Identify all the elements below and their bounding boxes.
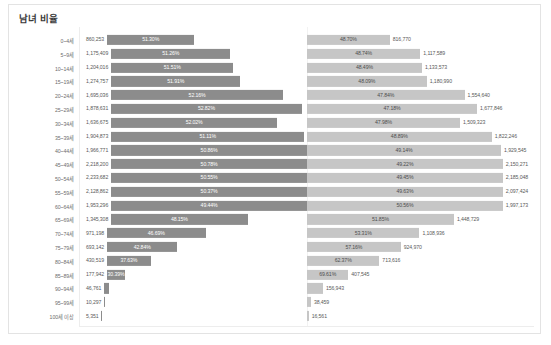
female-bar[interactable]: 48.89% <box>307 131 492 141</box>
male-bar[interactable]: 51.30% <box>107 35 194 45</box>
male-bar[interactable]: 51.11% <box>111 131 304 141</box>
female-bar[interactable]: 51.85% <box>307 214 454 224</box>
female-bar[interactable] <box>307 311 309 321</box>
female-bar[interactable]: 62.37% <box>307 256 379 266</box>
bar-track: 51.91%1,274,75748.09%1,180,990 <box>80 76 534 86</box>
male-percent-label: 50.78% <box>201 162 218 167</box>
female-percent-label: 48.49% <box>356 65 373 70</box>
female-bar[interactable]: 48.09% <box>307 76 427 86</box>
chart-row[interactable]: 50.55%2,233,68249.45%2,185,048 <box>80 173 534 183</box>
chart-row[interactable]: 52.82%1,878,63147.18%1,677,846 <box>80 104 534 114</box>
male-bar[interactable]: 37.63% <box>107 256 151 266</box>
female-bar[interactable]: 69.61% <box>307 270 348 280</box>
male-bar[interactable]: 51.26% <box>111 49 230 59</box>
chart-row[interactable]: 50.86%1,966,77149.14%1,929,545 <box>80 145 534 155</box>
female-side: 47.98%1,509,323 <box>307 118 531 128</box>
chart-row[interactable]: 51.91%1,274,75748.09%1,180,990 <box>80 76 534 86</box>
bar-track: 52.16%1,695,03647.84%1,554,640 <box>80 90 534 100</box>
male-bar[interactable]: 52.16% <box>111 90 283 100</box>
male-bar[interactable]: 52.82% <box>111 104 301 114</box>
chart-row[interactable]: 51.26%1,175,40948.74%1,117,589 <box>80 49 534 59</box>
female-bar[interactable]: 50.56% <box>307 201 503 211</box>
male-bar[interactable]: 51.91% <box>111 76 240 86</box>
female-side: 48.09%1,180,990 <box>307 76 531 86</box>
female-bar[interactable]: 47.18% <box>307 104 477 114</box>
female-percent-label: 48.74% <box>355 51 372 56</box>
y-axis-tick: 20~24세 <box>55 92 74 99</box>
chart-row[interactable]: 46,761156,943 <box>80 283 534 293</box>
male-side: 50.86%1,966,771 <box>83 145 307 155</box>
y-axis-tick: 70~74세 <box>55 230 74 237</box>
y-axis-tick: 55~59세 <box>55 188 74 195</box>
chart-row[interactable]: 49.44%1,953,29650.56%1,997,173 <box>80 201 534 211</box>
female-bar[interactable]: 57.16% <box>307 242 401 252</box>
male-count-label: 10,297 <box>83 300 104 305</box>
chart-row[interactable]: 52.02%1,636,67547.98%1,509,323 <box>80 118 534 128</box>
bar-track: 50.78%2,218,20049.22%2,150,271 <box>80 159 534 169</box>
female-side: 62.37%713,616 <box>307 256 531 266</box>
male-bar[interactable]: 52.02% <box>111 118 277 128</box>
chart-row[interactable]: 50.37%2,128,86249.63%2,097,424 <box>80 187 534 197</box>
female-bar[interactable]: 48.70% <box>307 35 390 45</box>
female-bar[interactable]: 48.49% <box>307 62 422 72</box>
male-percent-label: 52.16% <box>189 93 206 98</box>
y-axis-tick: 80~84세 <box>55 257 74 264</box>
male-side: 50.78%2,218,200 <box>83 159 307 169</box>
female-bar[interactable]: 49.45% <box>307 173 503 183</box>
chart-row[interactable]: 52.16%1,695,03647.84%1,554,640 <box>80 90 534 100</box>
female-bar[interactable] <box>307 297 311 307</box>
chart-row[interactable]: 51.30%860,25348.70%816,770 <box>80 35 534 45</box>
bar-track: 50.86%1,966,77149.14%1,929,545 <box>80 145 534 155</box>
male-side: 51.26%1,175,409 <box>83 49 307 59</box>
male-bar[interactable] <box>104 283 109 293</box>
female-bar[interactable]: 53.31% <box>307 228 419 238</box>
female-bar[interactable]: 48.74% <box>307 49 420 59</box>
female-bar[interactable]: 49.22% <box>307 159 503 169</box>
male-side: 10,297 <box>83 297 307 307</box>
male-percent-label: 51.26% <box>162 51 179 56</box>
female-percent-label: 48.70% <box>340 37 357 42</box>
chart-row[interactable]: 50.78%2,218,20049.22%2,150,271 <box>80 159 534 169</box>
y-axis-labels: 0~4세5~9세10~14세15~19세20~24세25~29세30~34세35… <box>17 27 79 327</box>
female-count-label: 816,770 <box>390 37 414 42</box>
page-title: 남녀 비율 <box>19 11 59 25</box>
male-bar[interactable] <box>104 297 105 307</box>
male-bar[interactable]: 51.51% <box>111 62 233 72</box>
chart-row[interactable]: 51.51%1,204,01648.49%1,133,573 <box>80 62 534 72</box>
male-bar[interactable]: 30.39% <box>107 270 125 280</box>
chart-row[interactable]: 42.84%693,14257.16%924,970 <box>80 242 534 252</box>
male-side: 52.16%1,695,036 <box>83 90 307 100</box>
female-count-label: 1,554,640 <box>465 93 493 98</box>
female-bar[interactable]: 47.98% <box>307 118 460 128</box>
bar-track: 5,35116,561 <box>80 311 534 321</box>
male-bar[interactable]: 50.55% <box>111 173 307 183</box>
bar-track: 46,761156,943 <box>80 283 534 293</box>
female-side: 53.31%1,108,936 <box>307 228 531 238</box>
chart-row[interactable]: 51.11%1,904,87348.89%1,822,246 <box>80 131 534 141</box>
male-bar[interactable] <box>101 311 102 321</box>
female-count-label: 2,185,048 <box>503 175 531 180</box>
male-bar[interactable]: 46.69% <box>107 228 205 238</box>
y-axis-tick: 90~94세 <box>55 285 74 292</box>
male-bar[interactable]: 50.37% <box>111 187 307 197</box>
female-bar[interactable] <box>307 283 323 293</box>
female-bar[interactable]: 47.84% <box>307 90 465 100</box>
chart-card: 남녀 비율 0~4세5~9세10~14세15~19세20~24세25~29세30… <box>8 4 541 334</box>
male-percent-label: 48.15% <box>171 217 188 222</box>
male-bar[interactable]: 49.44% <box>111 201 307 211</box>
chart-row[interactable]: 30.39%177,94269.61%407,545 <box>80 270 534 280</box>
female-bar[interactable]: 49.63% <box>307 187 503 197</box>
female-bar[interactable]: 49.14% <box>307 145 501 155</box>
male-count-label: 1,878,631 <box>83 106 111 111</box>
chart-row[interactable]: 48.15%1,345,30851.85%1,448,729 <box>80 214 534 224</box>
chart-row[interactable]: 10,29738,459 <box>80 297 534 307</box>
chart-row[interactable]: 5,35116,561 <box>80 311 534 321</box>
male-bar[interactable]: 50.78% <box>111 159 307 169</box>
chart-row[interactable]: 37.63%430,51962.37%713,616 <box>80 256 534 266</box>
male-bar[interactable]: 48.15% <box>111 214 247 224</box>
y-axis-tick: 10~14세 <box>55 64 74 71</box>
chart-row[interactable]: 46.69%971,19853.31%1,108,936 <box>80 228 534 238</box>
female-count-label: 1,108,936 <box>419 231 447 236</box>
male-bar[interactable]: 50.86% <box>111 145 307 155</box>
male-bar[interactable]: 42.84% <box>107 242 177 252</box>
